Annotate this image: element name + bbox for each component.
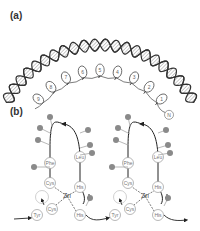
strand-connector <box>86 215 108 220</box>
side-chain-dot <box>87 142 93 148</box>
side-chain-dot <box>35 137 41 143</box>
linker-strand <box>35 76 166 113</box>
side-chain-dot <box>163 127 169 133</box>
strand-entry <box>14 218 30 219</box>
side-chain-dot <box>165 195 171 201</box>
side-chain-dot <box>85 127 91 133</box>
side-chain-dot <box>167 150 173 156</box>
side-chain-dot <box>31 164 37 170</box>
svg-text:9: 9 <box>37 96 40 102</box>
zinc-finger-motifs: PheLeuCysHisCysHisTyrZnPheLeuCysHisCysHi… <box>14 114 186 221</box>
svg-text:3: 3 <box>133 74 136 80</box>
finger-2: 2 <box>142 79 156 94</box>
svg-text:Tyr: Tyr <box>34 212 41 218</box>
zinc-ion: Zn <box>63 192 71 199</box>
svg-text:His: His <box>154 184 162 190</box>
svg-text:1: 1 <box>160 96 163 102</box>
zinc-finger-diagram: (a) 987654321N (b) PheLeuCysHisCysHisTyr… <box>0 0 200 231</box>
finger-3: 3 <box>128 70 141 84</box>
svg-text:5: 5 <box>99 67 102 73</box>
side-chain-dot <box>87 195 93 201</box>
strand-exit <box>164 215 186 220</box>
svg-text:Cys: Cys <box>48 206 57 212</box>
side-chain-dot <box>109 164 115 170</box>
zinc-finger-motif-1: PheLeuCysHisCysHisTyrZn <box>31 114 95 221</box>
finger-8: 8 <box>44 79 58 94</box>
svg-text:Tyr: Tyr <box>112 212 119 218</box>
svg-text:His: His <box>76 212 84 218</box>
svg-text:8: 8 <box>50 84 53 90</box>
svg-text:Phe: Phe <box>46 160 55 166</box>
svg-text:N: N <box>167 112 171 118</box>
side-chain-dot <box>165 142 171 148</box>
svg-text:2: 2 <box>148 84 151 90</box>
side-chain-dot <box>47 114 53 120</box>
side-chain-dot <box>113 137 119 143</box>
zinc-finger-chain: 987654321N <box>31 64 173 119</box>
svg-text:Phe: Phe <box>124 160 133 166</box>
svg-text:Cys: Cys <box>46 180 55 186</box>
panel-label-a: (a) <box>10 10 22 21</box>
svg-text:His: His <box>154 212 162 218</box>
zinc-finger-motif-2: PheLeuCysHisCysHisTyrZn <box>109 114 173 221</box>
svg-text:Cys: Cys <box>124 180 133 186</box>
finger-5: 5 <box>96 64 104 76</box>
finger-9: 9 <box>31 92 46 106</box>
svg-text:7: 7 <box>65 74 68 80</box>
side-chain-dot <box>115 125 121 131</box>
svg-text:Cys: Cys <box>126 206 135 212</box>
side-chain-dot <box>37 125 43 131</box>
svg-text:6: 6 <box>81 69 84 75</box>
side-chain-dot <box>125 114 131 120</box>
zinc-ion: Zn <box>141 192 149 199</box>
finger-7: 7 <box>60 70 73 84</box>
residue-empty <box>36 191 49 204</box>
finger-6: 6 <box>77 65 88 79</box>
svg-text:4: 4 <box>116 69 119 75</box>
panel-label-b: (b) <box>10 106 23 117</box>
svg-text:His: His <box>76 184 84 190</box>
residue-empty <box>114 191 127 204</box>
finger-4: 4 <box>112 65 123 79</box>
side-chain-dot <box>89 150 95 156</box>
